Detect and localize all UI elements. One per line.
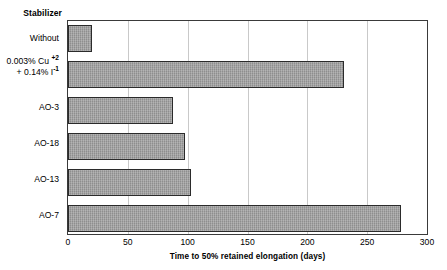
- x-tick-label-250: 250: [360, 237, 374, 247]
- gridline-50: [128, 21, 129, 234]
- bar-5: [68, 205, 401, 232]
- x-tick-label-0: 0: [66, 237, 71, 247]
- category-label-ao-18: AO-18: [0, 138, 59, 149]
- category-label-cu-i-line2-superscript: -1: [53, 65, 59, 72]
- gridline-200: [307, 21, 308, 234]
- x-tick-label-150: 150: [240, 237, 254, 247]
- bar-4: [68, 169, 191, 196]
- x-axis-title: Time to 50% retained elongation (days): [67, 252, 428, 261]
- category-label-cu-i-line1-text: 0.003% Cu: [7, 56, 52, 66]
- plot-area: [67, 20, 428, 235]
- category-label-cu-i: 0.003% Cu +2+ 0.14% I-1: [0, 56, 59, 77]
- gridline-250: [367, 21, 368, 234]
- x-axis-tick-labels: 050100150200250300: [0, 237, 447, 251]
- bar-0: [68, 25, 92, 52]
- category-label-without: Without: [0, 33, 59, 44]
- bar-chart: Stabilizer Without 0.003% Cu +2+ 0.14% I…: [0, 0, 447, 270]
- gridline-100: [188, 21, 189, 234]
- x-tick-label-300: 300: [420, 237, 434, 247]
- category-label-cu-i-line1-superscript: +2: [51, 54, 59, 61]
- x-tick-label-100: 100: [180, 237, 194, 247]
- y-axis-category-labels: Without 0.003% Cu +2+ 0.14% I-1 AO-3 AO-…: [0, 20, 63, 235]
- x-tick-label-200: 200: [300, 237, 314, 247]
- category-label-ao-13: AO-13: [0, 174, 59, 185]
- y-axis-heading: Stabilizer: [0, 8, 62, 18]
- category-label-ao-7: AO-7: [0, 210, 59, 221]
- bar-3: [68, 133, 185, 160]
- gridline-150: [248, 21, 249, 234]
- category-label-ao-3: AO-3: [0, 102, 59, 113]
- category-label-cu-i-line2-text: + 0.14% I: [17, 67, 54, 77]
- bar-2: [68, 97, 173, 124]
- bar-1: [68, 61, 344, 88]
- x-tick-label-50: 50: [123, 237, 133, 247]
